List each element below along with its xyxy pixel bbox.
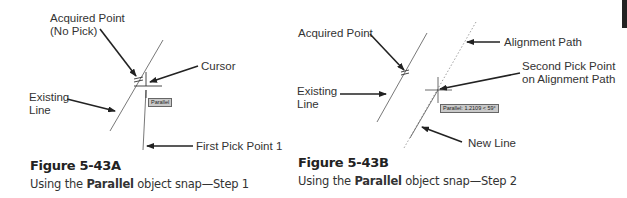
label-second-pick-b-2: on Alignment Path	[522, 73, 615, 85]
cursor-crosshair-b	[425, 77, 452, 103]
caption-text-b: Using the Parallel object snap—Step 2	[298, 174, 517, 188]
label-existing-a-2: Line	[29, 104, 51, 116]
figure-a-drawing	[67, 29, 198, 150]
arrow-acquired-point-a	[100, 29, 136, 76]
arrow-second-pick-b	[440, 73, 520, 89]
label-cursor-a: Cursor	[201, 60, 236, 72]
label-existing-b-2: Line	[297, 98, 319, 110]
arrow-cursor-a	[150, 66, 198, 82]
osnap-tooltip-b: Parallel: 1.2109 < 59°	[440, 104, 499, 113]
label-existing-a-1: Existing	[29, 91, 69, 103]
arrow-existing-line-a	[67, 99, 115, 111]
chapter-tab-marker	[622, 0, 627, 28]
label-no-pick-a: (No Pick)	[50, 25, 97, 37]
label-first-pick-point-a: First Pick Point 1	[196, 140, 282, 152]
caption-title-a: Figure 5-43A	[30, 158, 121, 173]
caption-bold-a: Parallel	[86, 177, 133, 191]
label-acquired-point-a: Acquired Point	[50, 12, 125, 24]
figure-b-drawing	[340, 22, 520, 148]
label-new-line-b: New Line	[468, 137, 516, 149]
arrow-acquired-point-b	[370, 34, 404, 70]
acquired-point-marker-a	[134, 77, 143, 82]
label-existing-b-1: Existing	[297, 85, 337, 97]
rubber-band-line-a	[143, 90, 146, 150]
caption-bold-b: Parallel	[354, 174, 401, 188]
label-second-pick-b-1: Second Pick Point	[522, 60, 615, 72]
existing-line-b	[377, 33, 427, 122]
osnap-tooltip-a: Parallel	[148, 98, 172, 107]
caption-text-a: Using the Parallel object snap—Step 1	[30, 177, 249, 191]
label-acquired-point-b: Acquired Point	[298, 27, 373, 39]
caption-title-b: Figure 5-43B	[298, 155, 389, 170]
label-alignment-path-b: Alignment Path	[504, 36, 582, 48]
arrow-new-line-b	[422, 127, 462, 142]
